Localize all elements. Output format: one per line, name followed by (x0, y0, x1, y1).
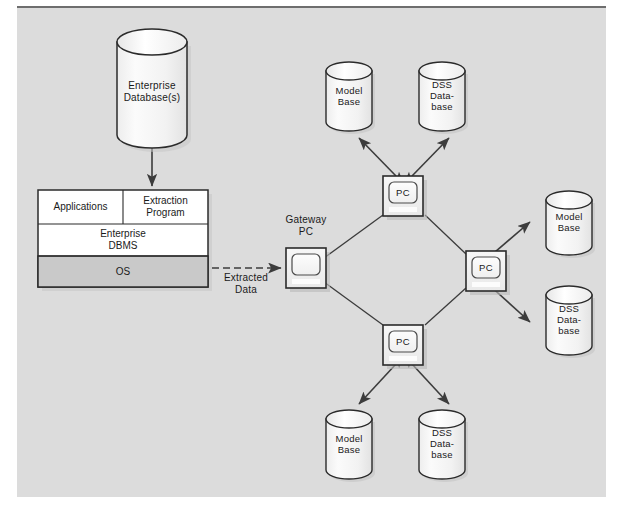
host-stack-extraction-program: Extraction Program (123, 190, 208, 224)
host-stack-os: OS (38, 256, 208, 287)
host-stack-enterprise-dbms: Enterprise DBMS (38, 224, 208, 256)
host-stack-applications: Applications (38, 190, 123, 224)
